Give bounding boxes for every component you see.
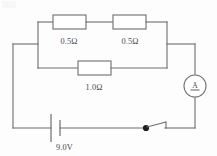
resistor-top-right-label: 0.5Ω [121,37,138,46]
circuit-diagram: A 0.5Ω 0.5Ω 1.0Ω 9.0V [0,0,217,156]
resistor-bottom-label: 1.0Ω [85,83,102,92]
resistor-bottom [78,61,111,75]
switch-lever[interactable] [147,122,166,127]
resistor-top-left-label: 0.5Ω [60,37,77,46]
resistor-top-left [53,15,86,29]
battery-label: 9.0V [56,143,73,152]
ammeter-label: A [192,81,198,90]
circuit-canvas: A 0.5Ω 0.5Ω 1.0Ω 9.0V [0,0,217,156]
switch-pivot-dot[interactable] [143,125,149,131]
resistor-top-right [113,15,146,29]
